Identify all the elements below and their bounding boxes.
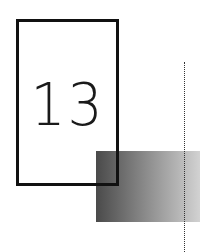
number-label: 13 <box>21 76 113 134</box>
number-frame: 13 <box>16 19 119 186</box>
dotted-vertical-line <box>184 62 185 252</box>
graphic-canvas: 13 <box>0 0 210 252</box>
